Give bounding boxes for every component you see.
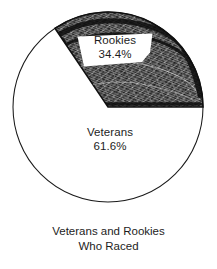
pie-chart-figure: Rookies 34.4% Veterans 61.6% Veterans an… xyxy=(0,0,217,269)
chart-caption-line-2: Who Raced xyxy=(8,239,209,254)
pie-label-rookies: Rookies 34.4% xyxy=(78,34,152,61)
chart-caption: Veterans and Rookies Who Raced xyxy=(8,224,209,253)
pie-label-rookies-name: Rookies xyxy=(78,34,152,48)
pie-label-veterans: Veterans 61.6% xyxy=(62,126,158,153)
pie-label-rookies-value: 34.4% xyxy=(78,48,152,62)
pie-label-veterans-name: Veterans xyxy=(62,126,158,140)
chart-caption-line-1: Veterans and Rookies xyxy=(8,224,209,239)
pie-label-veterans-value: 61.6% xyxy=(62,140,158,154)
